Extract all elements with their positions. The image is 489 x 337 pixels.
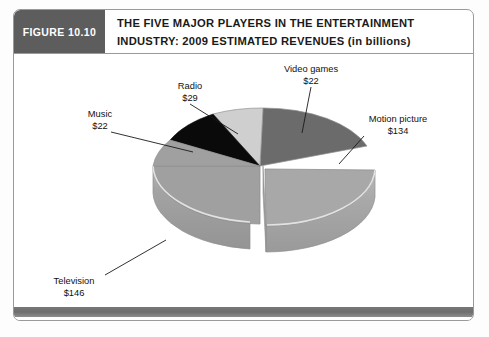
figure-bottom-margin — [14, 317, 473, 321]
label-motion-picture: Motion picture $134 — [342, 114, 454, 137]
figure-title: THE FIVE MAJOR PLAYERS IN THE ENTERTAINM… — [117, 14, 467, 50]
label-television-name: Television — [54, 276, 95, 286]
label-music-value: $22 — [58, 121, 142, 133]
label-motion-picture-value: $134 — [342, 126, 454, 138]
figure-number-badge: FIGURE 10.10 — [14, 10, 105, 53]
pie-chart-svg — [14, 54, 474, 307]
pie-chart-canvas: Video games $22 Radio $29 Music $22 Moti… — [14, 54, 473, 307]
label-motion-picture-name: Motion picture — [369, 114, 427, 124]
label-music-name: Music — [88, 109, 112, 119]
figure-title-line-1: THE FIVE MAJOR PLAYERS IN THE ENTERTAINM… — [117, 14, 467, 32]
figure-screenshot: FIGURE 10.10 THE FIVE MAJOR PLAYERS IN T… — [0, 0, 489, 337]
leader-line-television — [105, 240, 166, 275]
label-music: Music $22 — [58, 109, 142, 132]
figure-bottom-bar — [14, 307, 473, 317]
label-video-games-name: Video games — [284, 64, 338, 74]
label-television: Television $146 — [29, 276, 119, 299]
figure-frame: FIGURE 10.10 THE FIVE MAJOR PLAYERS IN T… — [13, 9, 474, 321]
figure-header: FIGURE 10.10 THE FIVE MAJOR PLAYERS IN T… — [14, 10, 473, 54]
label-television-value: $146 — [29, 288, 119, 300]
label-video-games: Video games $22 — [265, 64, 357, 87]
figure-number-label: FIGURE 10.10 — [23, 26, 97, 38]
label-radio: Radio $29 — [148, 81, 232, 104]
figure-title-line-2: INDUSTRY: 2009 ESTIMATED REVENUES (in bi… — [117, 32, 467, 50]
label-radio-value: $29 — [148, 93, 232, 105]
label-radio-name: Radio — [178, 81, 202, 91]
label-video-games-value: $22 — [265, 76, 357, 88]
